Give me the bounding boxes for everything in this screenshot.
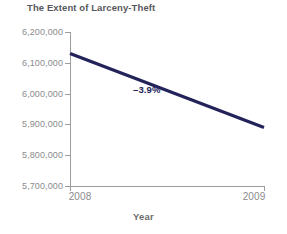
series-line-chart: [0, 0, 287, 234]
x-axis-title: Year: [0, 211, 287, 222]
page-edge-artifact: [0, 229, 287, 234]
percent-change-annotation: –3.9%: [133, 84, 160, 95]
chart-figure: The Extent of Larceny-Theft 6,200,000 6,…: [0, 0, 287, 234]
data-line-larceny-theft: [70, 54, 264, 128]
